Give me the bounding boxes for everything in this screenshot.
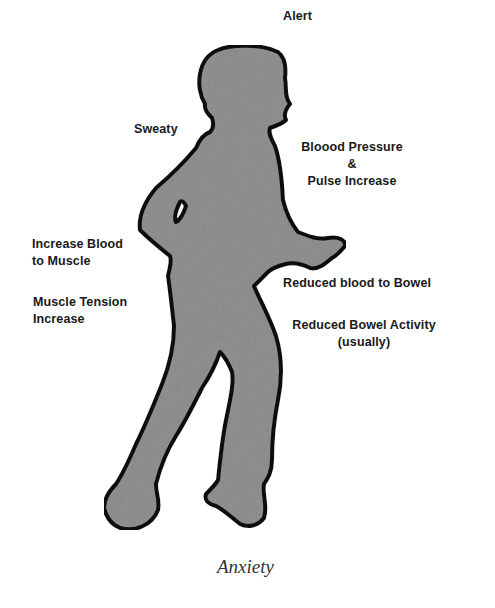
label-muscle-tension-line2: Increase [33,311,127,328]
label-blood-pressure-line3: Pulse Increase [290,173,414,190]
label-blood-pressure-line1: Bloood Pressure [290,139,414,156]
label-reduced-bowel-activity-line2: (usually) [282,334,446,351]
label-muscle-tension: Muscle Tension Increase [33,294,127,328]
label-muscle-tension-line1: Muscle Tension [33,294,127,311]
label-reduced-bowel-activity: Reduced Bowel Activity (usually) [282,317,446,351]
label-blood-pressure-line2: & [290,156,414,173]
label-alert: Alert [283,8,312,25]
label-increase-blood-to-muscle: Increase Blood to Muscle [32,236,123,270]
label-reduced-blood-to-bowel: Reduced blood to Bowel [283,275,431,292]
label-sweaty: Sweaty [134,121,178,138]
label-increase-blood-line2: to Muscle [32,253,123,270]
figure-caption: Anxiety [0,556,493,578]
label-increase-blood-line1: Increase Blood [32,236,123,253]
anxiety-diagram: Alert Sweaty Bloood Pressure & Pulse Inc… [0,0,495,608]
label-blood-pressure: Bloood Pressure & Pulse Increase [290,139,414,190]
label-reduced-bowel-activity-line1: Reduced Bowel Activity [282,317,446,334]
